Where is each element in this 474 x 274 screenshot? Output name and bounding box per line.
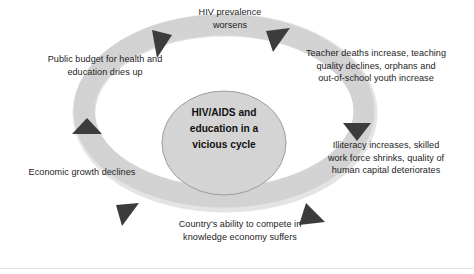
stage-label-hiv-prevalence: HIV prevalence worsens: [160, 6, 300, 31]
stage-label-public-budget: Public budget for health and education d…: [12, 53, 198, 78]
stage-label-illiteracy: Illiteracy increases, skilled work force…: [300, 139, 472, 177]
diagram-canvas: HIV prevalence worsens Teacher deaths in…: [0, 0, 474, 274]
bottom-divider: [0, 268, 474, 269]
center-label: HIV/AIDS and education in a vicious cycl…: [162, 105, 286, 154]
stage-label-teacher-deaths: Teacher deaths increase, teaching qualit…: [280, 47, 472, 85]
stage-label-knowledge-economy: Country's ability to compete in knowledg…: [136, 218, 344, 243]
stage-label-economic-growth: Economic growth declines: [2, 166, 162, 179]
